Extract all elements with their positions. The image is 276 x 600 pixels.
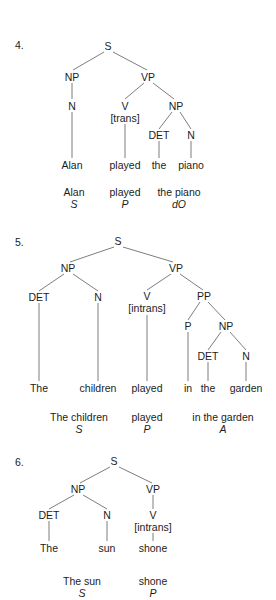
tree5-node-n-subject: N	[94, 292, 102, 303]
tree5-node-v: V	[143, 291, 150, 302]
tree4-summary-word-3: the piano	[157, 187, 200, 198]
tree4-leaf-1: Alan	[61, 160, 82, 171]
tree6-summary-word-2: shone	[139, 576, 168, 587]
tree6-node-np-subject: NP	[71, 484, 86, 495]
tree5-node-n-prep: N	[242, 351, 250, 362]
tree5-node-pp: PP	[197, 291, 211, 302]
tree5-leaf-1: The	[30, 383, 48, 394]
tree5-summary-function-3: A	[219, 424, 226, 435]
tree4-node-np-subject: NP	[65, 72, 80, 83]
tree5-summary-word-2: played	[132, 412, 163, 423]
tree5-leaf-5: the	[201, 383, 216, 394]
tree5-leaf-4: in	[184, 383, 192, 394]
tree5-summary-function-2: P	[143, 424, 150, 435]
exercise-number-4: 4.	[15, 40, 24, 51]
tree6-node-v-feature: [intrans]	[134, 522, 171, 533]
tree4-summary-word-1: Alan	[63, 187, 84, 198]
exercise-number-5: 5.	[15, 237, 24, 248]
tree4-node-v-feature: [trans]	[110, 113, 139, 124]
tree5-node-np-subject: NP	[61, 263, 76, 274]
tree5-summary-function-1: S	[75, 424, 82, 435]
tree6-node-n-subject: N	[103, 510, 111, 521]
tree4-leaf-2: played	[110, 160, 141, 171]
tree6-leaf-1: The	[40, 543, 58, 554]
tree5-node-np-prep: NP	[219, 321, 234, 332]
tree4-leaf-4: piano	[178, 160, 204, 171]
tree5-node-p: P	[184, 321, 191, 332]
tree4-node-vp: VP	[141, 72, 155, 83]
tree4-leaf-3: the	[152, 160, 167, 171]
tree4-summary-function-3: dO	[172, 199, 186, 210]
tree5-summary-word-3: in the garden	[192, 412, 253, 423]
tree5-node-s: S	[114, 236, 121, 247]
tree5-node-det-subject: DET	[29, 292, 50, 303]
tree6-leaf-2: sun	[99, 543, 116, 554]
syntax-tree-worksheet-page: 4. S NP N VP V [trans] NP DET N Alan pla…	[0, 0, 276, 600]
tree6-leaf-3: shone	[139, 543, 168, 554]
exercise-number-6: 6.	[15, 457, 24, 468]
tree4-node-s: S	[104, 41, 111, 52]
tree6-summary-word-1: The sun	[63, 576, 101, 587]
tree5-summary-word-1: The children	[50, 412, 108, 423]
tree4-node-det-object: DET	[149, 130, 170, 141]
tree5-leaf-6: garden	[230, 383, 263, 394]
tree5-leaf-2: children	[80, 383, 117, 394]
tree5-node-v-feature: [intrans]	[128, 303, 165, 314]
tree5-node-det-prep: DET	[198, 351, 219, 362]
tree4-summary-function-2: P	[121, 199, 128, 210]
tree6-node-det-subject: DET	[39, 510, 60, 521]
tree6-node-vp: VP	[146, 484, 160, 495]
tree4-summary-word-2: played	[110, 187, 141, 198]
tree5-leaf-3: played	[132, 383, 163, 394]
tree4-node-n-object: N	[187, 130, 195, 141]
tree6-summary-function-1: S	[78, 588, 85, 599]
tree4-summary-function-1: S	[70, 199, 77, 210]
tree4-node-np-object: NP	[169, 101, 184, 112]
tree6-summary-function-2: P	[149, 588, 156, 599]
tree4-node-v: V	[121, 101, 128, 112]
tree4-node-n-subject: N	[68, 101, 76, 112]
tree6-node-v: V	[149, 510, 156, 521]
tree6-node-s: S	[110, 456, 117, 467]
tree5-node-vp: VP	[169, 263, 183, 274]
